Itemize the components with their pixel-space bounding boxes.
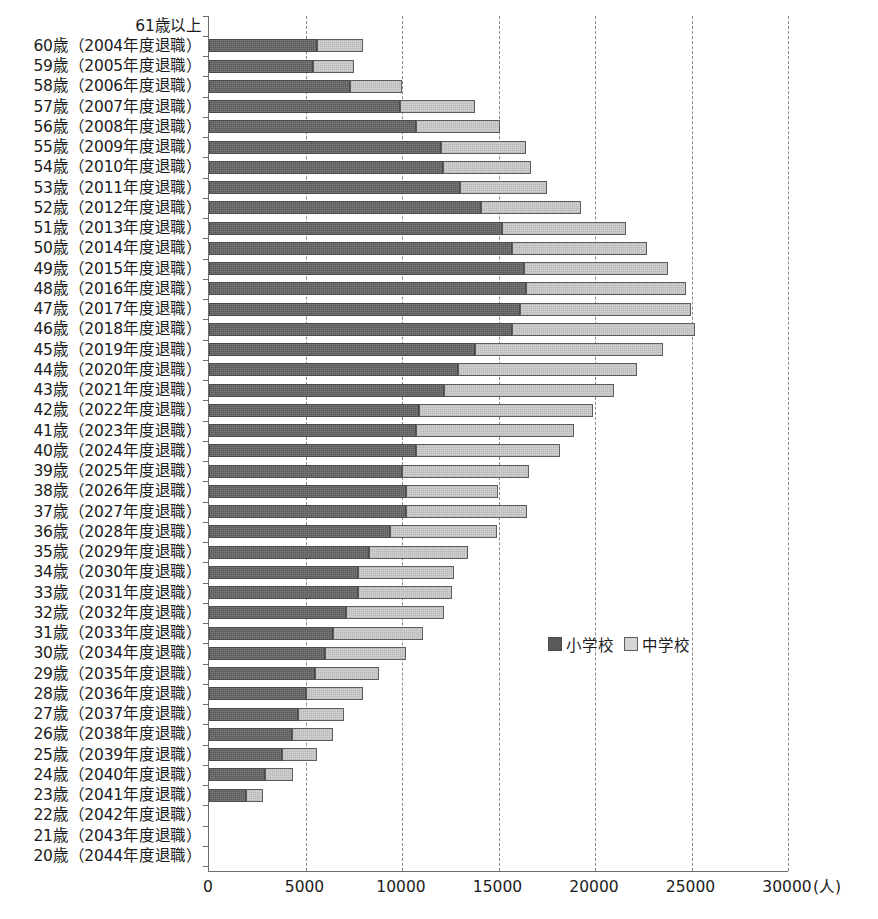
y-tick-37 (203, 765, 209, 766)
bar-segment-junior-high (333, 627, 424, 640)
bar-row (209, 282, 686, 295)
category-label-15: 46歳（2018年度退職） (33, 321, 202, 337)
y-tick-18 (203, 380, 209, 381)
bar-segment-junior-high (317, 39, 363, 52)
bar-row (209, 687, 363, 700)
bar-row (209, 485, 499, 498)
x-axis-unit-label: (人) (813, 878, 841, 896)
bar-segment-elementary (209, 748, 282, 761)
y-tick-14 (203, 299, 209, 300)
bar-segment-junior-high (358, 566, 455, 579)
bar-segment-elementary (209, 586, 358, 599)
category-label-25: 36歳（2028年度退職） (33, 524, 202, 540)
bar-segment-junior-high (416, 424, 574, 437)
bar-segment-junior-high (313, 60, 354, 73)
y-tick-16 (203, 340, 209, 341)
bar-row (209, 586, 452, 599)
y-tick-28 (203, 583, 209, 584)
y-tick-20 (203, 421, 209, 422)
bar-row (209, 141, 526, 154)
gridline-30000 (788, 16, 789, 871)
x-tick-label-10000: 10000 (376, 878, 425, 896)
category-label-6: 55歳（2009年度退職） (33, 139, 202, 155)
category-label-3: 58歳（2006年度退職） (33, 78, 202, 94)
category-label-17: 44歳（2020年度退職） (33, 362, 202, 378)
y-tick-4 (203, 97, 209, 98)
bar-segment-junior-high (460, 181, 547, 194)
bar-segment-elementary (209, 708, 298, 721)
category-label-11: 50歳（2014年度退職） (33, 240, 202, 256)
bar-segment-junior-high (524, 262, 669, 275)
y-tick-7 (203, 157, 209, 158)
bar-segment-elementary (209, 384, 444, 397)
y-tick-12 (203, 259, 209, 260)
category-label-18: 43歳（2021年度退職） (33, 382, 202, 398)
x-tick-label-5000: 5000 (285, 878, 324, 896)
bar-segment-elementary (209, 627, 333, 640)
y-tick-25 (203, 522, 209, 523)
bar-segment-elementary (209, 667, 315, 680)
bar-row (209, 505, 527, 518)
bar-segment-elementary (209, 728, 292, 741)
category-label-12: 49歳（2015年度退職） (33, 261, 202, 277)
bar-segment-junior-high (406, 505, 528, 518)
bar-segment-elementary (209, 687, 306, 700)
bar-segment-elementary (209, 768, 265, 781)
category-label-41: 20歳（2044年度退職） (33, 848, 202, 864)
y-tick-33 (203, 684, 209, 685)
bar-segment-junior-high (350, 80, 402, 93)
bar-row (209, 768, 293, 781)
bar-row (209, 384, 614, 397)
bar-row (209, 120, 500, 133)
y-tick-5 (203, 117, 209, 118)
bar-segment-junior-high (402, 465, 529, 478)
bar-segment-elementary (209, 141, 441, 154)
legend-item-1: 中学校 (624, 633, 690, 655)
bar-row (209, 262, 668, 275)
category-label-5: 56歳（2008年度退職） (33, 119, 202, 135)
y-tick-39 (203, 805, 209, 806)
y-tick-30 (203, 623, 209, 624)
category-label-38: 23歳（2041年度退職） (33, 787, 202, 803)
legend-label-1: 中学校 (642, 633, 690, 655)
bar-row (209, 728, 333, 741)
y-tick-21 (203, 441, 209, 442)
bar-segment-elementary (209, 465, 402, 478)
category-label-1: 60歳（2004年度退職） (33, 38, 202, 54)
legend-label-0: 小学校 (566, 633, 614, 655)
category-label-2: 59歳（2005年度退職） (33, 58, 202, 74)
gridline-25000 (692, 16, 693, 871)
y-tick-3 (203, 76, 209, 77)
bar-segment-junior-high (358, 586, 453, 599)
y-tick-40 (203, 826, 209, 827)
bar-segment-junior-high (512, 242, 647, 255)
y-tick-1 (203, 36, 209, 37)
bar-row (209, 323, 695, 336)
y-tick-10 (203, 218, 209, 219)
category-label-13: 48歳（2016年度退職） (33, 281, 202, 297)
bar-row (209, 363, 637, 376)
bar-segment-junior-high (419, 404, 593, 417)
category-label-14: 47歳（2017年度退職） (33, 301, 202, 317)
bar-row (209, 647, 406, 660)
category-label-37: 24歳（2040年度退職） (33, 767, 202, 783)
bar-row (209, 404, 593, 417)
bar-segment-junior-high (346, 606, 444, 619)
retirement-age-stacked-bar-chart: 61歳以上60歳（2004年度退職）59歳（2005年度退職）58歳（2006年… (0, 0, 878, 919)
y-tick-24 (203, 502, 209, 503)
y-tick-19 (203, 400, 209, 401)
bar-segment-junior-high (298, 708, 344, 721)
y-tick-23 (203, 481, 209, 482)
bar-segment-junior-high (526, 282, 686, 295)
bar-segment-junior-high (325, 647, 406, 660)
y-tick-38 (203, 785, 209, 786)
bar-segment-junior-high (443, 161, 532, 174)
bar-segment-junior-high (369, 546, 467, 559)
bar-segment-junior-high (315, 667, 379, 680)
category-label-7: 54歳（2010年度退職） (33, 159, 202, 175)
y-tick-6 (203, 137, 209, 138)
bar-segment-elementary (209, 100, 400, 113)
bar-row (209, 465, 529, 478)
dark-swatch-icon (548, 637, 562, 651)
bar-segment-junior-high (292, 728, 333, 741)
